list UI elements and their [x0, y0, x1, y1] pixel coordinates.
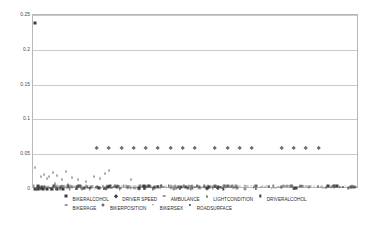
- data-point: [354, 186, 356, 188]
- legend-item[interactable]: DRIVERALCOHOL: [260, 196, 306, 203]
- y-tick-label: 0: [2, 186, 30, 191]
- data-point: [320, 185, 323, 186]
- legend-label: BIKERSEX: [160, 206, 183, 212]
- data-point: [108, 169, 110, 172]
- bar-marker-icon: [260, 196, 265, 203]
- legend-item[interactable]: BIKERAGE: [66, 205, 96, 212]
- chart-legend: BIKERALCOHOLDRIVER SPEEDAMBULANCELIGHTCO…: [32, 196, 358, 218]
- data-point: [263, 186, 266, 187]
- data-point: [317, 185, 319, 187]
- data-point: [130, 178, 132, 181]
- data-point: [56, 174, 58, 177]
- gridline: [33, 119, 357, 120]
- legend-label: BIKERALCOHOL: [73, 197, 109, 203]
- data-point: [294, 147, 297, 150]
- data-point: [255, 188, 257, 190]
- legend-item[interactable]: AMBULANCE: [164, 196, 200, 203]
- data-point: [85, 179, 87, 182]
- y-tick-label: 0.1: [2, 116, 30, 121]
- legend-item[interactable]: LIGHTCONDITION: [207, 196, 254, 203]
- data-point: [195, 147, 198, 150]
- data-point: [134, 147, 137, 150]
- legend-row: BIKERAGEBIKERPOSITION×BIKERSEXROADSURFAC…: [32, 205, 358, 214]
- legend-label: ROADSURFACE: [197, 206, 233, 212]
- legend-label: DRIVERALCOHOL: [267, 197, 307, 203]
- data-point: [52, 171, 54, 174]
- data-point: [65, 169, 67, 172]
- data-point: [104, 171, 106, 174]
- gridline: [33, 15, 357, 16]
- data-point: [109, 147, 112, 150]
- data-point: [146, 147, 149, 150]
- data-point: [97, 147, 100, 150]
- scatter-chart: 00.050.10.150.20.25 ××××××××××××××××××××…: [0, 0, 380, 225]
- x-marker-icon: ×: [153, 205, 158, 212]
- data-point: [182, 147, 185, 150]
- gridline: [33, 85, 357, 86]
- data-point: [246, 186, 249, 187]
- data-point: ×: [313, 185, 316, 188]
- data-point: [307, 185, 310, 188]
- data-point: [61, 177, 63, 180]
- data-point: [40, 175, 42, 178]
- gridline: [33, 154, 357, 155]
- data-point: [143, 188, 145, 190]
- y-tick-label: 0.2: [2, 46, 30, 51]
- legend-label: BIKERPOSITION: [110, 206, 146, 212]
- dash-marker-icon: [164, 196, 169, 203]
- gridline: [33, 50, 357, 51]
- data-point: [252, 147, 255, 150]
- dot-marker-icon: [190, 205, 195, 212]
- data-point: [240, 147, 243, 150]
- data-point: [268, 185, 270, 187]
- data-point: [99, 176, 101, 179]
- y-tick-label: 0.25: [2, 12, 30, 17]
- data-point: [227, 147, 230, 150]
- data-point: [158, 147, 161, 150]
- data-point: [306, 147, 309, 150]
- data-point: [34, 165, 36, 168]
- data-point: [48, 174, 50, 177]
- data-point: [77, 178, 79, 181]
- data-point: [318, 147, 321, 150]
- data-point: [243, 188, 246, 191]
- triangle-marker-icon: [207, 196, 212, 203]
- legend-label: LIGHTCONDITION: [213, 197, 253, 203]
- legend-row: BIKERALCOHOLDRIVER SPEEDAMBULANCELIGHTCO…: [32, 196, 358, 205]
- legend-label: BIKERAGE: [73, 206, 97, 212]
- data-point: [238, 186, 241, 187]
- square-marker-icon: [66, 196, 71, 203]
- y-axis-labels: 00.050.10.150.20.25: [0, 14, 30, 188]
- legend-item[interactable]: ×BIKERSEX: [153, 205, 183, 212]
- data-point: [170, 147, 173, 150]
- data-point: [33, 22, 36, 25]
- plot-area: ×××××××××××××××××××××××××××××××××××××: [32, 14, 358, 188]
- data-point: [282, 147, 285, 150]
- data-point: [71, 176, 73, 179]
- plus-marker-icon: [103, 205, 108, 212]
- data-point: [215, 147, 218, 150]
- y-tick-label: 0.05: [2, 151, 30, 156]
- data-point: [93, 174, 95, 177]
- dash-marker-icon: [66, 205, 71, 212]
- data-point: [274, 187, 277, 188]
- data-point: [46, 176, 48, 179]
- legend-item[interactable]: BIKERALCOHOL: [66, 196, 109, 203]
- data-point: [285, 184, 288, 187]
- data-point: [255, 185, 258, 188]
- legend-label: AMBULANCE: [171, 197, 200, 203]
- legend-item[interactable]: ROADSURFACE: [190, 205, 232, 212]
- data-point: ×: [344, 184, 347, 187]
- data-point: [121, 147, 124, 150]
- legend-item[interactable]: BIKERPOSITION: [103, 205, 146, 212]
- y-tick-label: 0.15: [2, 81, 30, 86]
- diamond-marker-icon: [116, 196, 121, 203]
